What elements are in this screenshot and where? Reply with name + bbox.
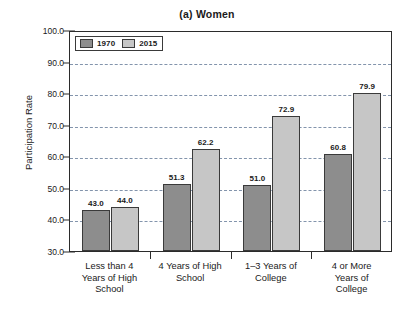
x-axis-category-label: 4 or MoreYears ofCollege: [332, 261, 372, 296]
x-tick-mark: [150, 252, 151, 259]
bar-1970-cat1: [163, 184, 191, 251]
x-axis-category-line: 4 or More: [332, 261, 372, 273]
x-tick-mark: [231, 252, 232, 259]
plot-area: 43.044.051.362.251.072.960.879.9: [69, 31, 392, 252]
bar-value-label: 72.9: [279, 105, 295, 114]
y-tick-label: 70.0: [4, 121, 64, 131]
x-axis-category-label: 1–3 Years ofCollege: [245, 261, 297, 284]
y-tick-label: 30.0: [4, 247, 64, 257]
bar-2015-cat1: [192, 149, 220, 251]
legend-swatch-icon: [80, 39, 93, 48]
x-axis-category-line: Years of: [332, 273, 372, 285]
y-tick-label: 80.0: [4, 89, 64, 99]
bar-value-label: 60.8: [330, 143, 346, 152]
y-tick-label: 40.0: [4, 215, 64, 225]
chart-legend: 19702015: [75, 36, 163, 51]
figure: (a) Women Participation Rate 30.040.050.…: [0, 0, 414, 319]
y-tick-label: 90.0: [4, 58, 64, 68]
bar-1970-cat3: [324, 154, 352, 251]
legend-label: 1970: [97, 39, 115, 48]
bar-value-label: 51.0: [250, 174, 266, 183]
x-axis-category-line: 4 Years of High: [159, 261, 222, 273]
bar-1970-cat2: [243, 185, 271, 251]
legend-swatch-icon: [122, 39, 135, 48]
bar-value-label: 43.0: [88, 199, 104, 208]
chart-title: (a) Women: [0, 8, 414, 20]
bar-2015-cat0: [111, 207, 139, 251]
bar-2015-cat3: [353, 93, 381, 251]
bar-value-label: 51.3: [169, 173, 185, 182]
gridline: [70, 64, 391, 65]
x-axis-category-line: Years of High: [82, 273, 137, 285]
x-axis-category-line: Less than 4: [82, 261, 137, 273]
x-axis-category-line: College: [332, 284, 372, 296]
x-axis-category-label: 4 Years of HighSchool: [159, 261, 222, 284]
x-tick-mark: [311, 252, 312, 259]
x-axis-category-line: 1–3 Years of: [245, 261, 297, 273]
legend-entry-2015: 2015: [122, 39, 157, 48]
y-tick-label: 60.0: [4, 152, 64, 162]
bar-2015-cat2: [272, 116, 300, 251]
y-tick-label: 50.0: [4, 184, 64, 194]
bar-value-label: 44.0: [117, 196, 133, 205]
legend-label: 2015: [139, 39, 157, 48]
legend-entry-1970: 1970: [80, 39, 115, 48]
gridline: [70, 127, 391, 128]
y-tick-label: 100.0: [4, 26, 64, 36]
bar-value-label: 79.9: [359, 82, 375, 91]
x-axis-category-line: College: [245, 273, 297, 285]
bar-1970-cat0: [82, 210, 110, 251]
x-axis-category-label: Less than 4Years of HighSchool: [82, 261, 137, 296]
gridline: [70, 95, 391, 96]
bar-value-label: 62.2: [198, 138, 214, 147]
x-axis-category-line: School: [159, 273, 222, 285]
x-axis-category-line: School: [82, 284, 137, 296]
